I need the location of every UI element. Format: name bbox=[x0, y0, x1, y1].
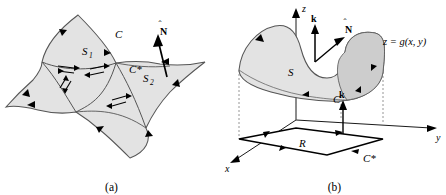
figure-container: C C* S 1 S 2 N ̂ (a) bbox=[0, 0, 446, 195]
label-region-r: R bbox=[298, 137, 306, 149]
panel-b-drawing: z y x S z = g(x, y) C C* R k k N ̂ bbox=[223, 0, 446, 175]
upper-vectors bbox=[311, 24, 345, 62]
label-axis-x: x bbox=[224, 163, 230, 174]
label-surface-equation: z = g(x, y) bbox=[382, 36, 427, 48]
region-r-fill bbox=[239, 128, 383, 155]
label-subsurface-2: S bbox=[143, 72, 149, 84]
arrow-head bbox=[292, 8, 300, 18]
label-unit-normal-b: N bbox=[345, 24, 353, 35]
region-r-group bbox=[239, 128, 383, 155]
lower-k-vector bbox=[339, 100, 347, 136]
panel-a: C C* S 1 S 2 N ̂ (a) bbox=[0, 0, 223, 195]
arrow-head bbox=[427, 125, 437, 132]
panel-a-drawing: C C* S 1 S 2 N ̂ bbox=[0, 0, 223, 175]
label-subsurface-1: S bbox=[82, 45, 88, 57]
normal-hat-accent-a: ̂ bbox=[158, 20, 162, 22]
label-axis-z: z bbox=[301, 3, 306, 14]
label-k-vector-lower: k bbox=[339, 89, 345, 100]
label-projected-curve: C* bbox=[363, 152, 376, 164]
label-subsurface-2-subscript: 2 bbox=[150, 78, 154, 87]
label-interior-curve: C* bbox=[129, 63, 142, 75]
normal-hat-accent-b: ̂ bbox=[343, 18, 347, 20]
arrow-head bbox=[230, 155, 240, 163]
caption-panel-b: (b) bbox=[223, 181, 446, 193]
arrow-head bbox=[311, 24, 319, 34]
label-boundary-curve: C bbox=[115, 28, 123, 40]
caption-panel-a: (a) bbox=[0, 181, 223, 193]
label-axis-y: y bbox=[435, 132, 441, 143]
label-normal-vector: N bbox=[160, 26, 168, 37]
arrow-head bbox=[351, 149, 359, 154]
label-k-vector-upper: k bbox=[311, 13, 317, 24]
axis-y-line bbox=[296, 120, 431, 128]
label-surface-s: S bbox=[288, 66, 294, 78]
panel-b: z y x S z = g(x, y) C C* R k k N ̂ (b) bbox=[223, 0, 446, 195]
label-subsurface-1-subscript: 1 bbox=[89, 51, 93, 60]
